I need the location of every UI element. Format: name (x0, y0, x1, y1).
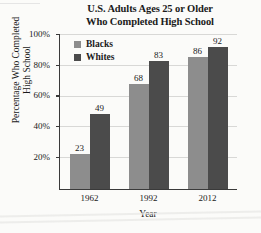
bar-value-2012-blacks: 86 (193, 46, 202, 56)
chart-title-line-2: Who Completed High School (55, 16, 245, 29)
bar-value-1992-whites: 83 (154, 50, 163, 60)
chart-title: U.S. Adults Ages 25 or Older Who Complet… (55, 3, 245, 28)
bar-2012-blacks: 86 (188, 57, 208, 189)
y-axis-title-line-1: Percentage Who Completed (11, 17, 23, 123)
bar-groups: 23 49 1962 68 83 1992 86 (60, 35, 237, 189)
bar-value-1962-blacks: 23 (75, 143, 84, 153)
y-tick-label-40: 40% (34, 121, 51, 131)
bar-value-1962-whites: 49 (95, 103, 104, 113)
chart-title-line-1: U.S. Adults Ages 25 or Older (55, 3, 245, 16)
y-tick-label-60: 60% (34, 90, 51, 100)
bar-value-1992-blacks: 68 (134, 73, 143, 83)
x-tick-label-2012: 2012 (199, 193, 217, 203)
y-tick-label-20: 20% (34, 152, 51, 162)
bar-2012-whites: 92 (208, 47, 228, 189)
plot-area: 20% 40% 60% 80% 100% Blacks Whites (59, 35, 237, 190)
bar-1992-blacks: 68 (129, 84, 149, 189)
chart-figure: U.S. Adults Ages 25 or Older Who Complet… (0, 0, 261, 233)
bar-group-1992: 68 83 1992 (129, 35, 169, 189)
bar-group-1962: 23 49 1962 (70, 35, 110, 189)
bar-1962-blacks: 23 (70, 154, 90, 189)
x-tick-label-1992: 1992 (140, 193, 158, 203)
y-tick-label-100: 100% (29, 29, 50, 39)
bar-1962-whites: 49 (90, 114, 110, 189)
y-axis-title: Percentage Who Completed High School (9, 0, 35, 150)
y-tick-label-80: 80% (34, 60, 51, 70)
x-tick-label-1962: 1962 (81, 193, 99, 203)
bar-1992-whites: 83 (149, 61, 169, 189)
bar-value-2012-whites: 92 (213, 36, 222, 46)
bar-group-2012: 86 92 2012 (188, 35, 228, 189)
